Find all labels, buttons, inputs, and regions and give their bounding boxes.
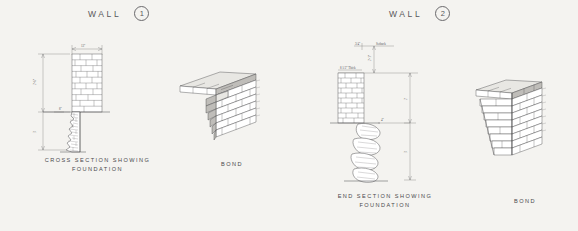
svg-text:2'-1": 2'-1" bbox=[368, 54, 372, 61]
svg-text:Setback: Setback bbox=[376, 42, 386, 46]
bond-edge-shading bbox=[256, 80, 260, 116]
dimension-foundation-depth: 3' bbox=[33, 112, 67, 150]
dimension-wall-width: 13" bbox=[72, 44, 102, 55]
wall-1-section-caption-line1: CROSS SECTION SHOWING bbox=[0, 156, 195, 165]
wall-1-title-text: WALL bbox=[88, 9, 121, 19]
wall-1-bond-caption: BOND bbox=[176, 160, 288, 169]
svg-text:3/4": 3/4" bbox=[355, 42, 361, 46]
wall-1-bond-drawing bbox=[176, 66, 288, 152]
wall-1-title: WALL 1 bbox=[88, 6, 149, 21]
boulder-foundation bbox=[351, 123, 380, 182]
wall-1-section-caption-line2: FOUNDATION bbox=[0, 165, 195, 174]
wall-2-bond-caption: BOND bbox=[472, 197, 578, 206]
wall-2-title-text: WALL bbox=[389, 9, 422, 19]
brick-wall-section bbox=[72, 54, 102, 112]
svg-text:8": 8" bbox=[59, 107, 63, 111]
dimension-footing-offset-2: 4" bbox=[378, 118, 410, 123]
svg-text:3': 3' bbox=[404, 150, 408, 153]
svg-text:13": 13" bbox=[81, 44, 86, 48]
dimension-foundation-depth-2: 3' bbox=[404, 123, 416, 180]
note-wall-thickness: 8 1/2" Thick bbox=[338, 66, 362, 70]
wall-2-section-figure: Setback 3/4" 2'-1" 8 1/2" Thick bbox=[318, 40, 438, 190]
dimension-footing-offset: 8" bbox=[54, 107, 70, 112]
dimension-above-wall: 2'-1" bbox=[368, 46, 376, 73]
svg-text:2'-6": 2'-6" bbox=[33, 78, 37, 85]
svg-text:8 1/2" Thick: 8 1/2" Thick bbox=[340, 66, 356, 70]
wall-1-bond-caption-line1: BOND bbox=[176, 160, 288, 169]
wall-1-bond-figure bbox=[176, 66, 288, 152]
wall-2-bond-drawing bbox=[472, 76, 578, 172]
brick-wall-end-section bbox=[338, 73, 364, 123]
wall-2-section-drawing: Setback 3/4" 2'-1" 8 1/2" Thick bbox=[318, 40, 438, 190]
wall-2-bond-caption-line1: BOND bbox=[472, 197, 578, 206]
wall-2-section-caption-line2: FOUNDATION bbox=[295, 201, 475, 210]
bond2-right-face bbox=[512, 88, 542, 155]
wall-2-title: WALL 2 bbox=[389, 6, 450, 21]
bond2-left-face bbox=[480, 99, 512, 155]
wall-2-section-caption-line1: END SECTION SHOWING bbox=[295, 192, 475, 201]
wall-1-section-caption: CROSS SECTION SHOWING FOUNDATION bbox=[0, 156, 195, 173]
wall-1-section-drawing: 13" bbox=[14, 40, 124, 155]
drawing-plate: WALL 1 WALL 2 13" bbox=[0, 0, 578, 231]
wall-1-section-figure: 13" bbox=[14, 40, 124, 155]
svg-text:3': 3' bbox=[33, 130, 37, 133]
dimension-wall-height-2: 2' bbox=[404, 73, 416, 123]
dimension-wall-height: 2'-6" bbox=[33, 54, 71, 112]
wall-2-section-caption: END SECTION SHOWING FOUNDATION bbox=[295, 192, 475, 209]
stone-foundation bbox=[66, 112, 80, 152]
svg-text:2': 2' bbox=[404, 97, 408, 100]
bond2-edge-shading bbox=[542, 88, 546, 131]
wall-2-bond-figure bbox=[472, 76, 578, 172]
wall-2-title-number: 2 bbox=[435, 6, 450, 21]
svg-text:4": 4" bbox=[381, 118, 385, 122]
wall-1-title-number: 1 bbox=[134, 6, 149, 21]
